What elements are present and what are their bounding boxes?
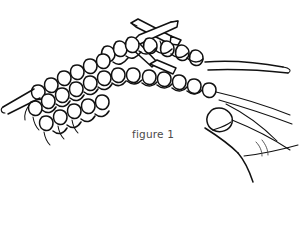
figure-illustration: figure 1 xyxy=(0,0,302,232)
fingertip xyxy=(207,108,232,132)
needle-right-tip xyxy=(205,61,290,73)
figure-caption: figure 1 xyxy=(132,128,174,140)
knitting-line-drawing xyxy=(0,0,302,232)
